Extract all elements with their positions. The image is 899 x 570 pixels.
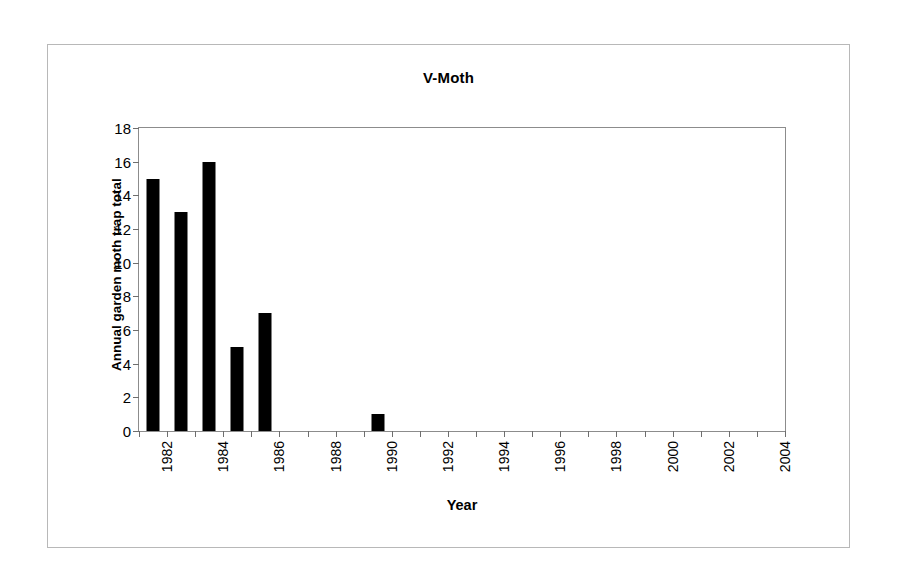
y-axis-tick-label: 10: [114, 254, 131, 271]
bar-slot: [476, 128, 504, 431]
x-axis-tick: [167, 431, 168, 437]
y-axis-tick-label: 4: [123, 355, 131, 372]
figure-frame: V-Moth Annual garden moth trap total 024…: [47, 44, 850, 548]
x-axis-tick: [476, 431, 477, 437]
y-axis-title: Annual garden moth trap total: [109, 145, 124, 405]
x-axis-tick: [223, 431, 224, 437]
x-axis-tick-label: 2004: [777, 441, 793, 472]
x-axis-tick: [139, 431, 140, 437]
x-axis-tick-label: 1984: [215, 441, 231, 472]
bar-slot: [504, 128, 532, 431]
bar-slot: [616, 128, 644, 431]
x-axis-tick: [420, 431, 421, 437]
x-axis-title: Year: [138, 497, 786, 513]
chart-title: V-Moth: [48, 69, 849, 86]
plot-area: 024681012141618 198219841986198819901992…: [138, 127, 786, 432]
bar[interactable]: [175, 212, 188, 431]
bar-slot: [139, 128, 167, 431]
x-axis-tick: [251, 431, 252, 437]
bar[interactable]: [203, 162, 216, 431]
x-axis-tick-label: 1990: [384, 441, 400, 472]
x-axis-tick-label: 2002: [721, 441, 737, 472]
bar[interactable]: [231, 347, 244, 431]
x-axis-tick: [364, 431, 365, 437]
y-axis-tick-label: 6: [123, 322, 131, 339]
x-axis-tick-label: 1992: [440, 441, 456, 472]
bars-layer: [139, 128, 785, 431]
x-axis-tick: [645, 431, 646, 437]
y-axis-tick-label: 14: [114, 187, 131, 204]
bar-slot: [560, 128, 588, 431]
bar-slot: [336, 128, 364, 431]
y-axis-tick-label: 12: [114, 221, 131, 238]
bar-slot: [167, 128, 195, 431]
x-axis-tick-label: 1996: [552, 441, 568, 472]
y-axis-tick-label: 18: [114, 120, 131, 137]
bar-slot: [279, 128, 307, 431]
y-axis-tick-label: 16: [114, 153, 131, 170]
x-axis-tick: [532, 431, 533, 437]
bar-slot: [223, 128, 251, 431]
bar[interactable]: [259, 313, 272, 431]
bar-slot: [195, 128, 223, 431]
x-axis-tick-label: 1994: [496, 441, 512, 472]
bar-slot: [364, 128, 392, 431]
x-axis-tick: [195, 431, 196, 437]
x-axis-tick: [729, 431, 730, 437]
bar-slot: [532, 128, 560, 431]
x-axis-tick: [504, 431, 505, 437]
x-axis-tick: [308, 431, 309, 437]
bar[interactable]: [371, 414, 384, 431]
bar-slot: [420, 128, 448, 431]
x-axis-tick: [560, 431, 561, 437]
x-axis-tick: [336, 431, 337, 437]
bar[interactable]: [147, 179, 160, 432]
bar-slot: [251, 128, 279, 431]
bar-slot: [757, 128, 785, 431]
x-axis-tick-label: 1982: [159, 441, 175, 472]
x-axis-tick: [785, 431, 786, 437]
x-axis-tick: [616, 431, 617, 437]
bar-slot: [588, 128, 616, 431]
y-axis-tick-label: 2: [123, 389, 131, 406]
bar-slot: [448, 128, 476, 431]
x-axis-tick: [448, 431, 449, 437]
x-axis-tick: [588, 431, 589, 437]
x-axis-tick: [279, 431, 280, 437]
x-axis-tick-label: 1988: [328, 441, 344, 472]
y-axis-tick-label: 0: [123, 423, 131, 440]
bar-slot: [701, 128, 729, 431]
y-axis-tick-label: 8: [123, 288, 131, 305]
x-axis-tick-label: 1986: [271, 441, 287, 472]
x-axis-tick: [757, 431, 758, 437]
x-axis-tick: [673, 431, 674, 437]
x-axis-tick: [701, 431, 702, 437]
x-axis-tick-label: 1998: [608, 441, 624, 472]
x-axis-tick: [392, 431, 393, 437]
bar-slot: [645, 128, 673, 431]
bar-slot: [729, 128, 757, 431]
bar-slot: [673, 128, 701, 431]
x-axis-tick-label: 2000: [665, 441, 681, 472]
bar-slot: [308, 128, 336, 431]
bar-slot: [392, 128, 420, 431]
